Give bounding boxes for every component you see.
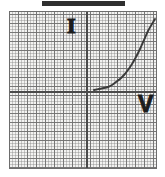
iv-curve-figure: { "figure": { "title_bar": { "name": "re… xyxy=(0,0,165,177)
iv-curve-svg xyxy=(10,12,156,168)
diode-curve-path xyxy=(94,19,155,90)
redaction-bar xyxy=(42,1,125,6)
axis-label-voltage: V xyxy=(138,93,153,116)
axis-label-current: I xyxy=(67,15,76,37)
graph-paper-plot xyxy=(9,11,157,169)
